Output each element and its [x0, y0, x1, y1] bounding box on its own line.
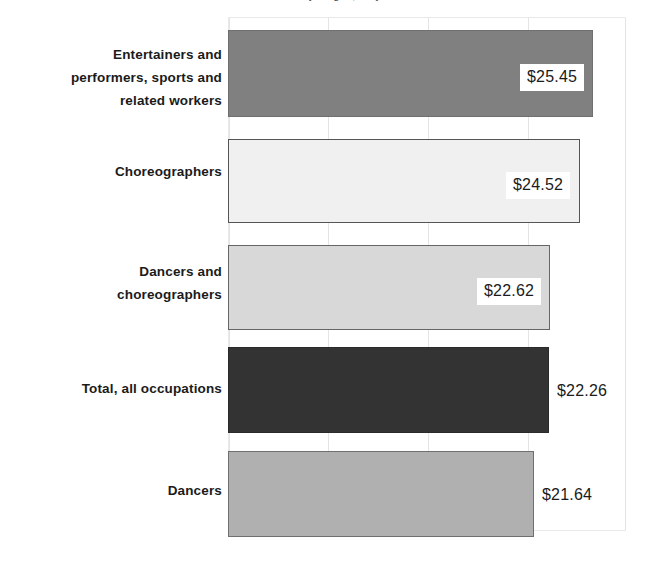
bar-chart: Median hourly wages, May 2021 Entertaine… — [0, 0, 651, 566]
category-label-line: related workers — [0, 89, 222, 112]
category-label: Total, all occupations — [0, 377, 222, 400]
bar-total-all-occupations[interactable] — [228, 347, 549, 433]
page-title: Median hourly wages, May 2021 — [0, 0, 651, 3]
value-label: $22.62 — [477, 278, 541, 305]
category-label-line: Dancers — [0, 479, 222, 502]
category-label-line: Dancers and — [0, 260, 222, 283]
category-axis: Entertainers and performers, sports and … — [0, 17, 222, 531]
value-label: $25.45 — [520, 64, 584, 91]
category-label-line: performers, sports and — [0, 66, 222, 89]
value-label: $22.26 — [557, 383, 607, 399]
category-label-line: Entertainers and — [0, 43, 222, 66]
bars-layer: $25.45 $24.52 $22.62 $22.26 $21.64 — [228, 17, 626, 531]
category-label: Dancers — [0, 479, 222, 502]
category-label: Dancers and choreographers — [0, 260, 222, 306]
category-label: Choreographers — [0, 160, 222, 183]
value-label: $21.64 — [542, 487, 592, 503]
category-label: Entertainers and performers, sports and … — [0, 43, 222, 112]
value-label: $24.52 — [506, 172, 570, 199]
category-label-line: Choreographers — [0, 160, 222, 183]
category-label-line: Total, all occupations — [0, 377, 222, 400]
bar-dancers[interactable] — [228, 451, 534, 537]
category-label-line: choreographers — [0, 283, 222, 306]
